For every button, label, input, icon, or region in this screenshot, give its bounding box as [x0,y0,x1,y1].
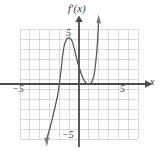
function-curve [44,15,101,147]
y-axis-tick-label-positive-five: 5 [66,27,71,38]
coordinate-plane [0,0,161,151]
x-axis-label: x [150,76,154,87]
x-axis-tick-label-negative-five: −5 [12,83,24,94]
function-label: f′(x) [68,2,86,14]
curve-start-arrow-icon [44,137,49,146]
x-axis-tick-label-positive-five: 5 [120,83,125,94]
graph-figure: f′(x) −5 5 5 −5 x [0,0,161,151]
y-axis [75,16,82,148]
y-axis-tick-label-negative-five: −5 [62,129,74,140]
curve-end-arrow-icon [96,15,101,24]
y-axis-arrow-icon [75,16,82,23]
